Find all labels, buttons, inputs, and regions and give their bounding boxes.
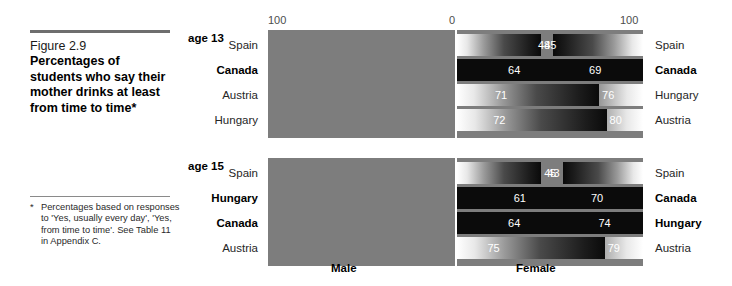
category-label-left: Canada xyxy=(170,215,258,231)
category-label-left: Canada xyxy=(170,62,258,78)
category-label-right: Spain xyxy=(655,165,732,181)
plot-area: 4345617064747579 xyxy=(268,158,643,266)
bar-male xyxy=(563,162,643,184)
zero-axis-line xyxy=(455,30,457,138)
category-label-right: Austria xyxy=(655,240,732,256)
bar-female xyxy=(457,212,595,234)
bar-value-male: 72 xyxy=(493,112,505,128)
bar-value-female: 79 xyxy=(608,240,620,256)
zero-axis-line xyxy=(455,158,457,266)
category-label-left: Spain xyxy=(170,165,258,181)
bar-value-male: 64 xyxy=(508,215,520,231)
category-label-left: Hungary xyxy=(170,190,258,206)
category-label-left: Austria xyxy=(170,240,258,256)
axis-tick-center-0: 0 xyxy=(449,14,455,26)
legend-label-male: Male xyxy=(331,262,357,274)
bar-value-female: 76 xyxy=(602,87,614,103)
category-label-left: Hungary xyxy=(170,112,258,128)
footnote-body: Percentages based on responses to 'Yes, … xyxy=(41,202,180,246)
bar-value-female: 80 xyxy=(610,112,622,128)
figure-caption-block: Figure 2.9 Percentages of students who s… xyxy=(30,30,175,116)
bar-female xyxy=(457,84,599,106)
category-label-left: Spain xyxy=(170,37,258,53)
category-label-right: Hungary xyxy=(655,87,732,103)
category-label-right: Spain xyxy=(655,37,732,53)
category-label-left: Austria xyxy=(170,87,258,103)
bar-value-male: 61 xyxy=(514,190,526,206)
axis-tick-right-100: 100 xyxy=(620,14,638,26)
bar-value-male: 75 xyxy=(488,240,500,256)
bar-value-female: 69 xyxy=(589,62,601,78)
footnote-marker: * xyxy=(30,202,41,213)
category-label-right: Austria xyxy=(655,112,732,128)
bar-value-male: 71 xyxy=(495,87,507,103)
bar-male xyxy=(553,34,643,56)
bar-value-female: 45 xyxy=(544,37,556,53)
bar-female xyxy=(457,34,541,56)
legend-label-female: Female xyxy=(516,262,556,274)
bar-value-female: 74 xyxy=(598,215,610,231)
plot-area: 4845646971767280 xyxy=(268,30,643,138)
bar-female xyxy=(457,162,541,184)
bar-female xyxy=(457,59,586,81)
caption-rule xyxy=(30,30,170,33)
footnote-block: *Percentages based on responses to 'Yes,… xyxy=(30,196,180,248)
bar-value-female: 45 xyxy=(544,165,556,181)
category-label-right: Canada xyxy=(655,190,732,206)
bar-female xyxy=(457,109,607,131)
bar-value-male: 64 xyxy=(508,62,520,78)
x-axis: 1000100 xyxy=(0,14,732,28)
footnote-text: *Percentages based on responses to 'Yes,… xyxy=(30,202,180,248)
axis-tick-left-100: 100 xyxy=(268,14,286,26)
bar-female xyxy=(457,237,605,259)
category-label-right: Hungary xyxy=(655,215,732,231)
category-label-right: Canada xyxy=(655,62,732,78)
footnote-rule xyxy=(30,196,170,197)
figure-number: Figure 2.9 xyxy=(30,39,175,54)
bar-value-female: 70 xyxy=(591,190,603,206)
figure-title: Percentages of students who say their mo… xyxy=(30,54,175,116)
